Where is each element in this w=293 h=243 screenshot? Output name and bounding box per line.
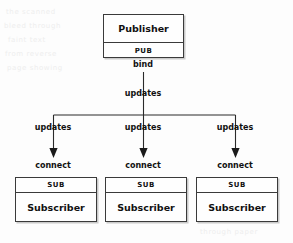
- subscriber-title-1: Subscriber: [16, 193, 96, 221]
- subscriber-socket-sub-2: SUB: [106, 178, 186, 193]
- subscriber-socket-sub-1: SUB: [16, 178, 96, 193]
- diagram-canvas: the scanned bleed through faint text fro…: [0, 0, 293, 243]
- subscriber-node-2[interactable]: SUB Subscriber: [105, 177, 187, 222]
- branch-updates-label-middle: updates: [125, 123, 162, 132]
- publisher-socket-pub: PUB: [104, 43, 183, 58]
- connect-label-right: connect: [217, 161, 253, 170]
- arrowhead-left: [49, 148, 57, 158]
- branch-updates-label-right: updates: [217, 123, 254, 132]
- connect-label-middle: connect: [125, 161, 161, 170]
- subscriber-node-3[interactable]: SUB Subscriber: [196, 177, 278, 222]
- trunk-updates-label: updates: [125, 89, 162, 98]
- subscriber-socket-sub-3: SUB: [197, 178, 277, 193]
- connect-label-left: connect: [35, 161, 71, 170]
- arrowhead-middle: [139, 148, 147, 158]
- bind-label: bind: [133, 60, 153, 69]
- subscriber-node-1[interactable]: SUB Subscriber: [15, 177, 97, 222]
- publisher-node[interactable]: Publisher PUB: [103, 14, 184, 58]
- publisher-title: Publisher: [104, 15, 183, 43]
- subscriber-title-2: Subscriber: [106, 193, 186, 221]
- branch-updates-label-left: updates: [35, 123, 72, 132]
- arrowhead-right: [231, 148, 239, 158]
- subscriber-title-3: Subscriber: [197, 193, 277, 221]
